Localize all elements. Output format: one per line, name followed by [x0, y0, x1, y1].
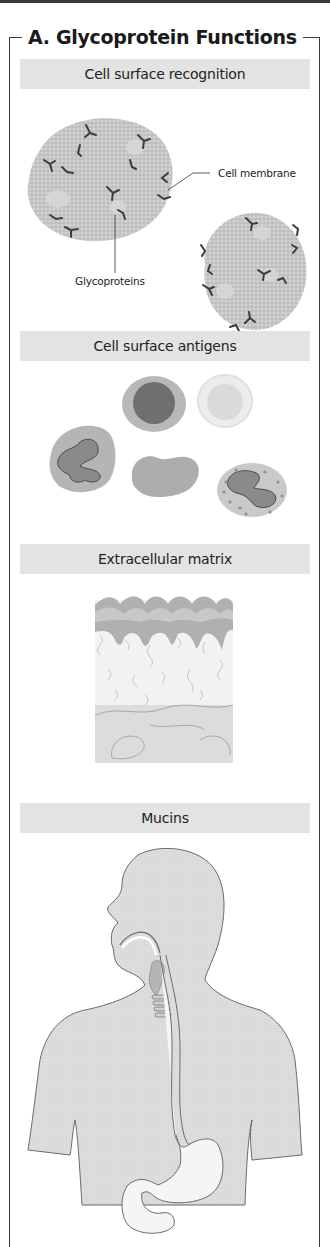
panel-heading-mucins: Mucins	[20, 803, 310, 833]
extracellular-matrix-illustration	[0, 590, 330, 770]
label-glycoproteins: Glycoproteins	[75, 275, 145, 287]
label-cell-membrane: Cell membrane	[218, 167, 296, 179]
kidney-shaped-cell	[132, 456, 199, 497]
panel-heading-antigens: Cell surface antigens	[20, 331, 310, 361]
cell-recognition-illustration	[0, 95, 330, 365]
figure-title: A. Glycoprotein Functions	[22, 24, 303, 50]
top-rule	[0, 0, 330, 3]
body-silhouette	[28, 848, 302, 1205]
erythrocyte-cell	[198, 375, 252, 427]
lymphocyte-cell	[122, 376, 186, 432]
granulocyte-cell	[217, 463, 287, 517]
blood-cells-illustration	[0, 370, 330, 520]
cell-left	[28, 118, 173, 241]
monocyte-cell	[50, 426, 116, 492]
human-torso-illustration	[0, 845, 330, 1245]
panel-heading-matrix: Extracellular matrix	[20, 544, 310, 574]
panel-heading-recognition: Cell surface recognition	[20, 59, 310, 89]
